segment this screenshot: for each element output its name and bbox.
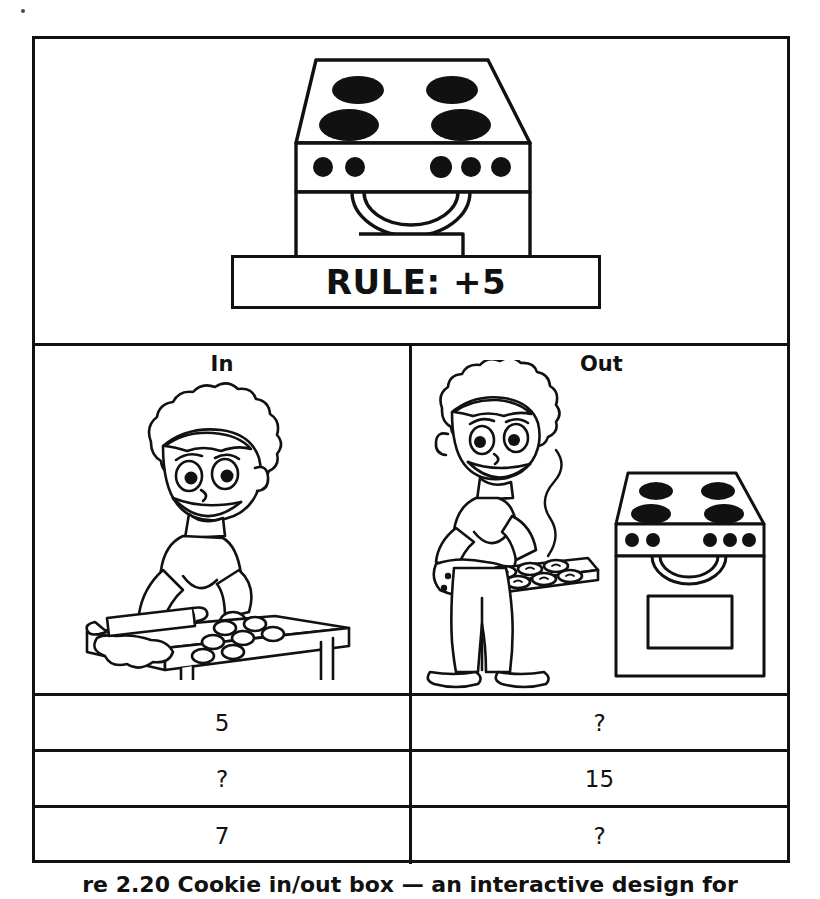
table-row: 7 ? <box>35 808 787 864</box>
in-value-cell[interactable]: 5 <box>35 696 412 749</box>
in-column-cell: In <box>35 346 412 693</box>
child-holding-cookie-tray-icon <box>420 360 620 690</box>
in-column-heading: In <box>35 352 409 376</box>
table-row: ? 15 <box>35 752 787 808</box>
out-value-cell[interactable]: 15 <box>412 752 787 805</box>
stove-icon <box>606 468 772 678</box>
figure-caption: re 2.20 Cookie in/out box — an interacti… <box>0 872 820 897</box>
rule-label: RULE: +5 <box>326 265 506 299</box>
out-column-cell: Out <box>412 346 787 693</box>
scan-artifact-speck <box>21 9 25 13</box>
out-column-heading: Out <box>412 352 787 376</box>
child-rolling-dough-icon <box>77 380 367 680</box>
out-value-cell[interactable]: ? <box>412 696 787 749</box>
in-value-cell[interactable]: 7 <box>35 808 412 864</box>
in-out-value-table: 5 ? ? 15 7 ? <box>35 696 787 860</box>
stove-icon <box>280 53 542 265</box>
illustration-row: In <box>35 346 787 696</box>
rule-plate: RULE: +5 <box>231 255 601 309</box>
out-value-cell[interactable]: ? <box>412 808 787 864</box>
machine-panel: RULE: +5 <box>35 39 787 346</box>
in-value-cell[interactable]: ? <box>35 752 412 805</box>
table-row: 5 ? <box>35 696 787 752</box>
in-out-box-diagram: RULE: +5 In <box>32 36 790 863</box>
